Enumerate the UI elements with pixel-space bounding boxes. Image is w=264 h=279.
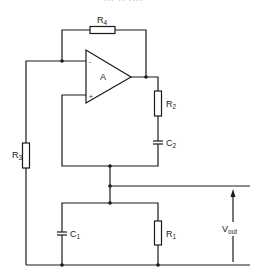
r4-label: R4 <box>97 15 108 26</box>
op-amp-label: A <box>100 72 106 82</box>
c2-label: C2 <box>166 138 177 149</box>
resistor-r2 <box>155 91 162 116</box>
r3-label: R3 <box>12 150 23 161</box>
vout-indicator: Vout <box>222 189 237 262</box>
resistor-r3 <box>23 143 30 168</box>
r1-label: R1 <box>166 229 177 240</box>
c1-r1-network: C1 R1 <box>57 203 177 265</box>
vout-label: Vout <box>222 224 237 235</box>
resistor-r4 <box>90 27 115 34</box>
op-amp: A - + <box>86 50 131 103</box>
r2-label: R2 <box>166 99 177 110</box>
r2-c2-branch: R2 C2 <box>110 77 177 166</box>
capacitor-c1 <box>57 232 67 235</box>
inverting-input-sign: - <box>89 58 91 65</box>
capacitor-c2 <box>153 141 163 144</box>
circuit-diagram: R4 A - + R3 R2 C2 <box>0 0 264 279</box>
noninverting-input-sign: + <box>89 93 93 100</box>
resistor-r1 <box>155 221 162 245</box>
c1-label: C1 <box>70 229 81 240</box>
noninverting-input-wire <box>62 95 110 166</box>
arrow-up-icon <box>231 189 236 197</box>
